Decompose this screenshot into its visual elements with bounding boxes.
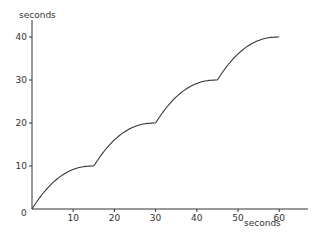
- curve-segment: [94, 123, 156, 166]
- x-tick-label: 10: [67, 213, 79, 223]
- y-tick-label: 20: [16, 118, 28, 128]
- axes: 10203040506010203040: [16, 20, 308, 223]
- curve-segment: [217, 37, 279, 80]
- x-tick-label: 30: [150, 213, 162, 223]
- x-tick-label: 50: [232, 213, 244, 223]
- chart: 10203040506010203040 seconds seconds 0: [0, 0, 324, 237]
- x-tick-label: 20: [109, 213, 121, 223]
- y-tick-label: 30: [16, 75, 28, 85]
- y-tick-label: 40: [16, 32, 28, 42]
- curve-segment: [156, 80, 218, 123]
- origin-label: 0: [21, 208, 27, 218]
- x-axis-label: seconds: [244, 218, 281, 228]
- data-curve: [32, 37, 279, 209]
- y-tick-label: 10: [16, 161, 28, 171]
- x-tick-label: 40: [191, 213, 203, 223]
- y-axis-label: seconds: [19, 10, 56, 20]
- curve-segment: [32, 166, 94, 209]
